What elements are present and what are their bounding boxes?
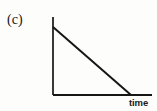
x-axis-label: time — [129, 97, 148, 108]
figure-panel: (c) height above ground time — [0, 0, 157, 111]
plot-area — [0, 0, 157, 111]
data-line-height-vs-time — [53, 27, 131, 95]
